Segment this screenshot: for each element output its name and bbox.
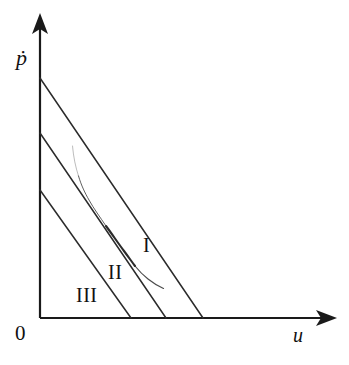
trajectory-segment-top xyxy=(73,146,79,176)
x-axis-label: u xyxy=(293,325,303,345)
origin-label: 0 xyxy=(15,323,26,344)
boundary-line-middle xyxy=(40,133,166,318)
trajectory-segment-tail xyxy=(135,266,164,289)
region-label-iii: III xyxy=(76,285,97,305)
phase-diagram-figure: ṗ u 0 I II III xyxy=(0,0,349,365)
trajectory-segment-upper xyxy=(79,176,107,226)
region-label-ii: II xyxy=(108,262,122,282)
trajectory-segment-tangency xyxy=(106,226,135,266)
diagram-canvas xyxy=(0,0,349,365)
region-label-i: I xyxy=(143,235,150,255)
y-axis-label: ṗ xyxy=(16,47,27,69)
